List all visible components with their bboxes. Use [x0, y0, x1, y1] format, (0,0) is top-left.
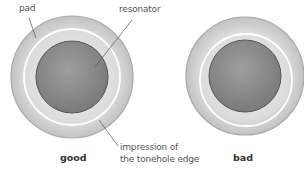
bad-pad-diagram: [186, 17, 304, 135]
impression-label-line1: impression of: [120, 142, 178, 153]
good-caption: good: [60, 152, 87, 163]
bad-caption: bad: [233, 152, 253, 163]
resonator-disc: [209, 40, 281, 112]
impression-label-line2: the tonehole edge: [120, 154, 199, 165]
good-pad-diagram: [11, 16, 133, 138]
resonator-label: resonator: [119, 4, 160, 15]
pad-label: pad: [19, 3, 35, 14]
resonator-disc: [36, 41, 108, 113]
